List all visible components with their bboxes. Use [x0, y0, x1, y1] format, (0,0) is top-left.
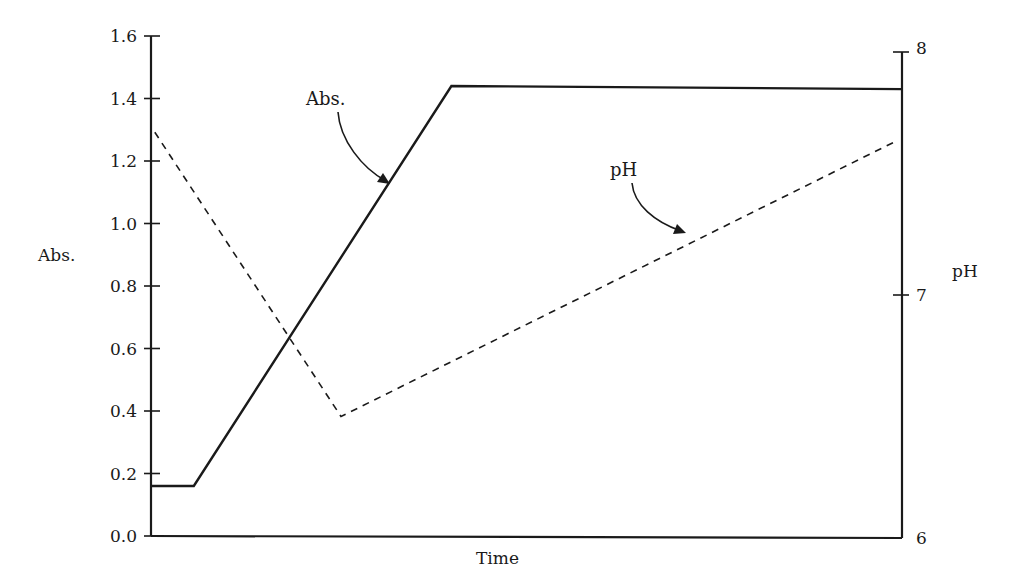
left-tick-label: 0.8: [110, 276, 137, 296]
left-tick-label: 1.4: [110, 89, 137, 109]
annotation-abs-label: Abs.: [305, 88, 345, 109]
dual-axis-line-chart: 0.00.20.40.60.81.01.21.41.6 678 Abs. pH …: [0, 0, 1013, 584]
right-tick-label: 6: [916, 528, 927, 548]
right-tick-label: 8: [916, 38, 927, 58]
annotation-abs-arrow-icon: [338, 112, 386, 181]
left-y-axis: 0.00.20.40.60.81.01.21.41.6: [110, 26, 160, 546]
left-tick-label: 0.4: [110, 401, 137, 421]
left-tick-label: 1.6: [110, 26, 137, 46]
annotation-ph-arrow-icon: [632, 183, 681, 231]
left-axis-title: Abs.: [37, 245, 75, 265]
annotation-ph-label: pH: [610, 159, 637, 180]
left-tick-label: 1.0: [110, 214, 137, 234]
series-layer: [151, 86, 902, 486]
right-tick-label: 7: [916, 285, 927, 305]
left-tick-label: 0.0: [110, 526, 137, 546]
x-axis-title: Time: [476, 548, 519, 568]
left-tick-label: 0.6: [110, 339, 137, 359]
right-y-axis: 678: [893, 38, 927, 548]
right-axis-title: pH: [952, 261, 978, 281]
annotation-abs-arrowhead-icon: [377, 173, 390, 184]
series-abs-line: [151, 86, 902, 486]
x-axis-line: [151, 536, 902, 538]
left-tick-label: 1.2: [110, 151, 137, 171]
left-tick-label: 0.2: [110, 464, 137, 484]
x-axis: [151, 536, 902, 538]
